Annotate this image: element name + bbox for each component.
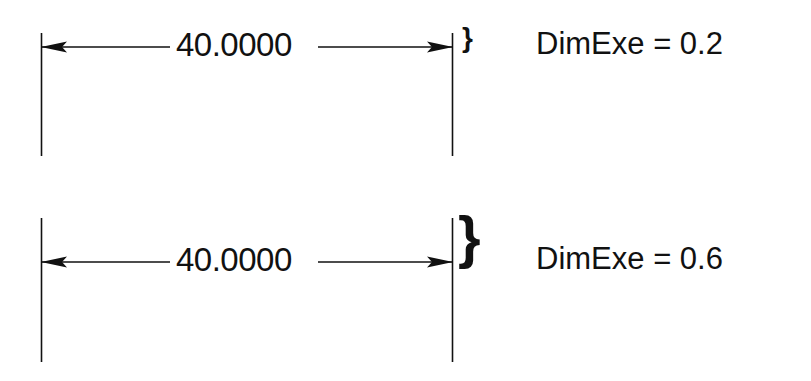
dimexe-variable-label: DimExe = 0.2 <box>536 28 723 59</box>
dimension-example-dimexe-0-2: 40.0000 } DimExe = 0.2 <box>0 0 811 190</box>
dimension-value-text: 40.0000 <box>170 243 298 276</box>
dimension-example-dimexe-0-6: 40.0000 } DimExe = 0.6 <box>0 190 811 381</box>
dimexe-figure: 40.0000 } DimExe = 0.2 40.0000 } DimEx <box>0 0 811 381</box>
extension-callout-brace: } <box>462 24 473 52</box>
dimension-drawing-bottom <box>0 190 811 381</box>
extension-callout-brace: } <box>458 208 481 266</box>
dimexe-variable-label: DimExe = 0.6 <box>536 243 723 274</box>
dimension-value-text: 40.0000 <box>170 28 298 61</box>
